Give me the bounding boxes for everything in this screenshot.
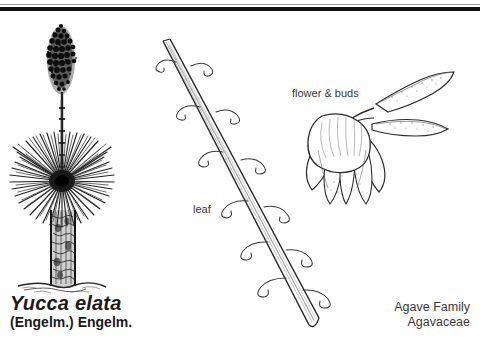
buds bbox=[372, 72, 454, 136]
family-block: Agave Family Agavaceae bbox=[394, 300, 470, 330]
family-scientific-name: Agavaceae bbox=[394, 315, 470, 330]
leaf-label: leaf bbox=[193, 203, 211, 215]
flower-and-buds-label: flower & buds bbox=[292, 87, 359, 99]
flower-detail-figure bbox=[0, 0, 480, 340]
illustration-plate: leaf flower & buds Yucca elata (Engelm.)… bbox=[0, 0, 480, 340]
scientific-name: Yucca elata bbox=[10, 292, 122, 315]
family-common-name: Agave Family bbox=[394, 300, 470, 315]
taxon-authority: (Engelm.) Engelm. bbox=[10, 314, 132, 330]
